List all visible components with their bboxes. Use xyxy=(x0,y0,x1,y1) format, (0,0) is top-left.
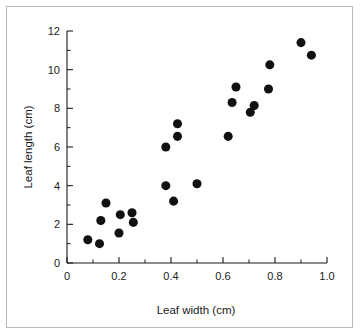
data-point xyxy=(264,84,273,93)
data-point xyxy=(231,83,240,92)
y-tick-label: 6 xyxy=(54,141,60,153)
scatter-plot: 00.20.40.60.81.0024681012 Leaf width (cm… xyxy=(0,0,360,335)
y-tick-label: 0 xyxy=(54,257,60,269)
data-point xyxy=(101,199,110,208)
x-tick-label: 0 xyxy=(64,270,70,282)
data-point xyxy=(192,179,201,188)
x-tick-label: 0.2 xyxy=(111,270,126,282)
y-tick-label: 8 xyxy=(54,102,60,114)
data-point xyxy=(96,216,105,225)
data-point xyxy=(250,101,259,110)
data-point xyxy=(129,218,138,227)
x-tick-label: 0.8 xyxy=(267,270,282,282)
tick-labels-group: 00.20.40.60.81.0024681012 xyxy=(48,25,335,282)
data-point xyxy=(161,142,170,151)
y-tick-label: 4 xyxy=(54,180,60,192)
data-point xyxy=(296,38,305,47)
data-point xyxy=(307,51,316,60)
data-point xyxy=(83,235,92,244)
y-axis-title: Leaf length (cm) xyxy=(22,105,34,188)
data-point xyxy=(224,132,233,141)
data-point xyxy=(127,208,136,217)
y-tick-label: 10 xyxy=(48,64,60,76)
data-point xyxy=(265,60,274,69)
x-tick-label: 1.0 xyxy=(319,270,334,282)
ticks-group xyxy=(67,31,327,263)
y-tick-label: 2 xyxy=(54,218,60,230)
data-point xyxy=(95,239,104,248)
data-point xyxy=(228,98,237,107)
x-tick-label: 0.6 xyxy=(215,270,230,282)
axes-group xyxy=(67,31,327,263)
data-point xyxy=(173,132,182,141)
data-points-group xyxy=(83,38,316,248)
data-point xyxy=(161,181,170,190)
data-point xyxy=(169,197,178,206)
data-point xyxy=(116,210,125,219)
data-point xyxy=(114,229,123,238)
x-tick-label: 0.4 xyxy=(163,270,178,282)
data-point xyxy=(173,119,182,128)
figure-container: 00.20.40.60.81.0024681012 Leaf width (cm… xyxy=(0,0,360,335)
y-tick-label: 12 xyxy=(48,25,60,37)
x-axis-title: Leaf width (cm) xyxy=(157,304,236,316)
